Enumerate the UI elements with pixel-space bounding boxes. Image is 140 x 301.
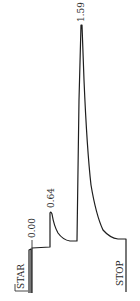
peak-0-label: 0.00 [27,218,37,238]
stop-label: STOP [115,260,125,286]
peak-1-label: 0.64 [46,188,56,208]
start-injection-trace [29,249,31,293]
chromatogram-trace [32,25,126,293]
start-label: STAR [16,264,26,289]
peak-2-label: 1.59 [76,2,86,22]
chromatogram-chart: STAR 0.00 0.64 1.59 STOP [0,0,140,301]
